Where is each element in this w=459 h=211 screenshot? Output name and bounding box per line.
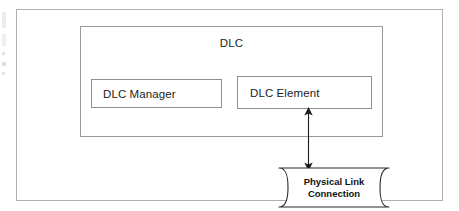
- bidirectional-arrow-icon: [296, 106, 322, 172]
- physical-link-label-line2: Connection: [308, 188, 360, 200]
- scan-artifact: [2, 62, 6, 66]
- outer-frame: DLC DLC Manager DLC Element Physical Lin…: [16, 9, 443, 201]
- scan-artifact: [2, 12, 6, 28]
- scan-artifact: [2, 52, 5, 55]
- physical-link-label-line1: Physical Link: [304, 176, 365, 188]
- scan-artifact: [2, 72, 5, 75]
- dlc-manager-block: DLC Manager: [91, 79, 222, 108]
- dlc-manager-label: DLC Manager: [92, 88, 176, 100]
- dlc-element-label: DLC Element: [238, 87, 320, 99]
- diagram-canvas: DLC DLC Manager DLC Element Physical Lin…: [0, 0, 459, 211]
- scan-artifact: [2, 34, 6, 46]
- dlc-container-label: DLC: [81, 37, 382, 49]
- dlc-element-block: DLC Element: [237, 76, 372, 109]
- physical-link-connection-node: Physical Link Connection: [275, 167, 393, 208]
- physical-link-connection-label: Physical Link Connection: [275, 167, 393, 208]
